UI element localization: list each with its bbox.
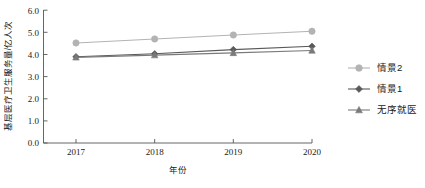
legend-label: 情景1 [377,83,402,94]
series-line-1 [76,31,312,43]
legend-item-1[interactable]: 情景2 [348,62,402,73]
series-layer [73,28,316,60]
series-1 [73,28,315,46]
chart-figure: 6.0 5.0 4.0 3.0 2.0 1.0 0.0 基层医疗卫生服务量/亿人… [0,0,425,188]
data-point [151,36,157,42]
x-tick-label-2020: 2020 [303,147,322,157]
legend-label: 情景2 [377,62,402,73]
y-tick-label-2: 2.0 [28,94,40,104]
y-tick-labels: 6.0 5.0 4.0 3.0 2.0 1.0 0.0 [28,6,40,149]
data-point [230,32,236,38]
legend-label: 无序就医 [377,104,417,115]
x-tick-label-2018: 2018 [146,147,165,157]
x-ticks [76,139,312,143]
series-3 [73,47,315,60]
x-tick-labels: 2017 2018 2019 2020 [67,147,322,157]
legend-marker-circle-icon [356,65,363,72]
y-tick-label-6: 6.0 [28,6,40,16]
legend-item-2[interactable]: 情景1 [348,83,402,94]
y-axis: 6.0 5.0 4.0 3.0 2.0 1.0 0.0 基层医疗卫生服务量/亿人… [3,6,48,149]
x-tick-label-2017: 2017 [67,147,86,157]
y-axis-title: 基层医疗卫生服务量/亿人次 [3,21,13,131]
y-tick-label-5: 5.0 [28,28,40,38]
y-ticks [44,10,48,143]
legend-item-3[interactable]: 无序就医 [348,104,417,115]
y-tick-label-0: 0.0 [28,138,40,148]
y-tick-label-4: 4.0 [28,50,40,60]
x-tick-label-2019: 2019 [224,147,243,157]
chart-legend: 情景2情景1无序就医 [348,62,417,115]
y-tick-label-3: 3.0 [28,72,40,82]
x-axis-title: 年份 [169,165,187,175]
x-axis: 2017 2018 2019 2020 年份 [44,139,322,175]
line-chart: 6.0 5.0 4.0 3.0 2.0 1.0 0.0 基层医疗卫生服务量/亿人… [0,0,425,188]
legend-marker-diamond-icon [356,86,363,93]
y-tick-label-1: 1.0 [28,116,40,126]
data-point [309,28,315,34]
data-point [73,40,79,46]
